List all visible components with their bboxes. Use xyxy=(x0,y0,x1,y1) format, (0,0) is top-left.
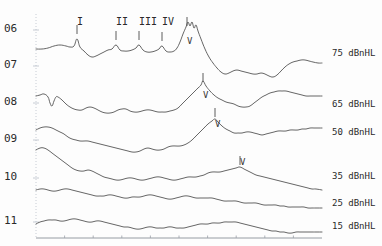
waveform-trace xyxy=(36,22,322,77)
wave-v-label: V xyxy=(240,157,245,167)
waveform-line xyxy=(36,119,322,152)
waveform-line xyxy=(36,189,322,208)
abr-waveform-figure: 060708091011 IIIIIIIV 75 dBnHL65 dBnHL50… xyxy=(0,0,382,246)
peak-label-iii: III xyxy=(139,16,157,27)
waveform-trace xyxy=(36,81,322,113)
y-axis-tick-label: 08 xyxy=(4,95,17,108)
waveform-line xyxy=(36,81,322,113)
waveform-line xyxy=(36,148,322,190)
peak-label-ii: II xyxy=(116,16,128,27)
waveform-trace xyxy=(36,219,322,233)
level-label: 35 dBnHL xyxy=(332,171,375,181)
y-axis-tick-label: 09 xyxy=(4,132,17,145)
wave-v-label: V xyxy=(203,90,208,100)
waveform-trace xyxy=(36,189,322,208)
level-label: 50 dBnHL xyxy=(332,127,375,137)
waveform-trace xyxy=(36,148,322,190)
waveform-line xyxy=(36,22,322,77)
level-label: 65 dBnHL xyxy=(332,99,375,109)
level-label: 75 dBnHL xyxy=(332,48,375,58)
y-axis-tick-label: 11 xyxy=(4,214,17,227)
waveform-line xyxy=(36,219,322,233)
wave-v-label: V xyxy=(215,119,220,129)
level-label: 15 dBnHL xyxy=(332,221,375,231)
y-axis-tick-label: 10 xyxy=(4,170,17,183)
wave-v-label: V xyxy=(187,36,192,46)
waveform-trace xyxy=(36,119,322,152)
peak-label-i: I xyxy=(77,16,83,27)
peak-label-iv: IV xyxy=(162,16,174,27)
level-label: 25 dBnHL xyxy=(332,198,375,208)
y-axis-tick-label: 06 xyxy=(4,22,17,35)
y-axis-tick-label: 07 xyxy=(4,58,17,71)
